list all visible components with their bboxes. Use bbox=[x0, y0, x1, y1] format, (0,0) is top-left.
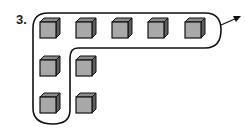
cube bbox=[76, 93, 96, 113]
cube bbox=[40, 18, 60, 38]
cube bbox=[185, 18, 205, 38]
cube bbox=[112, 18, 132, 38]
cube bbox=[40, 93, 60, 113]
cube-grouping-figure bbox=[0, 0, 245, 130]
cube bbox=[148, 18, 168, 38]
cube bbox=[76, 56, 96, 76]
cube bbox=[40, 56, 60, 76]
cube bbox=[76, 18, 96, 38]
